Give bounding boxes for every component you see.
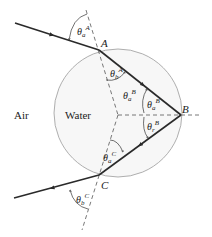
- angle-label-theta-b-C: θbC: [76, 192, 89, 207]
- air-label: Air: [14, 109, 29, 121]
- angle-label-theta-a-A: θaA: [77, 24, 90, 39]
- point-A-label: A: [100, 37, 108, 49]
- svg-text:θaA: θaA: [77, 24, 90, 39]
- exit-ray-arrow: [52, 175, 99, 188]
- incident-ray-arrow: [15, 23, 52, 35]
- svg-text:θbC: θbC: [76, 192, 89, 207]
- point-C-label: C: [101, 179, 109, 191]
- water-label: Water: [65, 109, 91, 121]
- point-B-label: B: [182, 103, 189, 115]
- droplet-refraction-diagram: Air Water A B C θaA θbA θaB θaB θrB θaC …: [0, 0, 212, 237]
